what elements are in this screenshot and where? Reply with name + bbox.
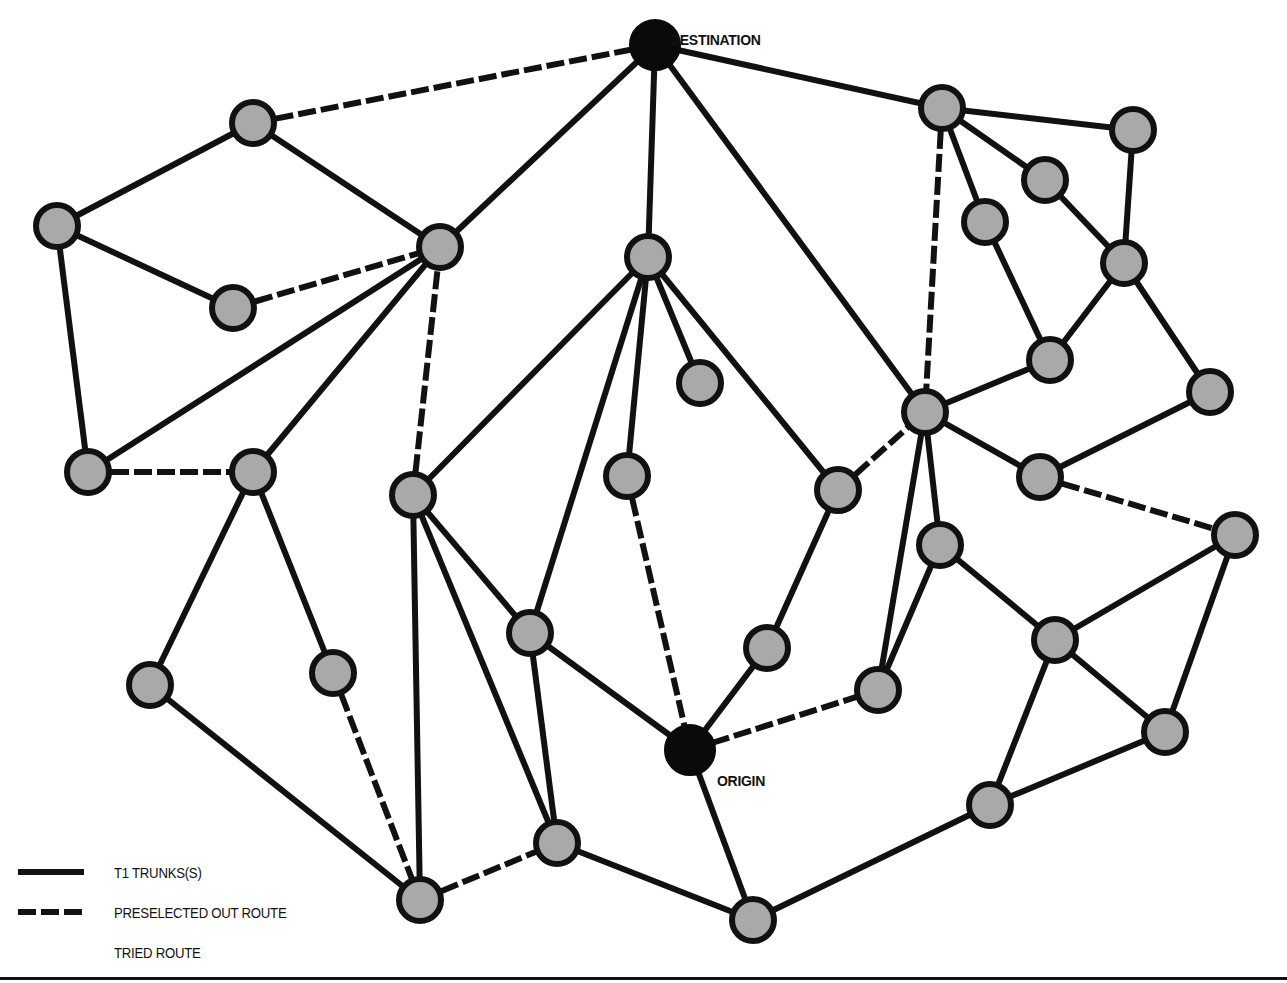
network-node xyxy=(399,879,441,921)
network-routing-diagram: DESTINATION ORIGIN xyxy=(0,0,1287,983)
t1-trunk-edge xyxy=(648,45,655,257)
destination-label: DESTINATION xyxy=(670,32,761,48)
preselected-route-edge xyxy=(253,45,655,123)
node-layer xyxy=(36,21,1256,941)
network-node xyxy=(1019,456,1061,498)
network-node xyxy=(129,664,171,706)
legend-item-t1-trunks: T1 TRUNKS(S) xyxy=(18,852,310,892)
origin-node xyxy=(666,726,714,774)
network-node xyxy=(857,669,899,711)
solid-line-icon xyxy=(18,862,84,882)
legend-label: TRIED ROUTE xyxy=(114,944,201,961)
tried-route-icon xyxy=(18,942,84,962)
network-node xyxy=(627,236,669,278)
preselected-route-edge xyxy=(925,108,942,412)
legend-item-tried-route: TRIED ROUTE xyxy=(18,932,310,972)
network-node xyxy=(36,205,78,247)
preselected-route-edge xyxy=(233,247,440,308)
t1-trunk-edge xyxy=(767,490,838,648)
preselected-route-edge xyxy=(413,247,440,495)
t1-trunk-edge xyxy=(1055,535,1235,640)
network-node xyxy=(904,391,946,433)
t1-trunk-edge xyxy=(88,247,440,472)
network-node xyxy=(536,822,578,864)
t1-trunk-edge xyxy=(753,805,990,920)
network-node xyxy=(969,784,1011,826)
t1-trunk-edge xyxy=(253,123,440,247)
t1-trunk-edge xyxy=(57,226,88,472)
t1-trunk-edge xyxy=(253,472,333,673)
network-node xyxy=(1214,514,1256,556)
network-node xyxy=(212,287,254,329)
legend-label: PRESELECTED OUT ROUTE xyxy=(114,904,286,921)
network-node xyxy=(606,455,648,497)
network-node xyxy=(392,474,434,516)
network-node xyxy=(419,226,461,268)
t1-trunk-edge xyxy=(253,247,440,472)
t1-trunk-edge xyxy=(1040,392,1210,477)
network-node xyxy=(312,652,354,694)
network-node xyxy=(509,612,551,654)
dashed-line-icon xyxy=(18,902,84,922)
t1-trunk-edge xyxy=(57,123,253,226)
network-node xyxy=(1029,339,1071,381)
t1-trunk-edge xyxy=(1165,535,1235,732)
network-node xyxy=(232,451,274,493)
t1-trunk-edge xyxy=(557,843,753,920)
network-node xyxy=(732,899,774,941)
network-node xyxy=(1034,619,1076,661)
origin-label: ORIGIN xyxy=(717,773,765,789)
preselected-route-edge xyxy=(1040,477,1235,535)
preselected-route-edge xyxy=(690,690,878,750)
network-node xyxy=(232,102,274,144)
network-node xyxy=(1189,371,1231,413)
t1-trunk-edge xyxy=(413,495,420,900)
network-node xyxy=(679,362,721,404)
t1-trunk-edge xyxy=(655,45,925,412)
network-node xyxy=(67,451,109,493)
network-node xyxy=(1024,159,1066,201)
t1-trunk-edge xyxy=(150,472,253,685)
network-node xyxy=(1112,109,1154,151)
legend-label: T1 TRUNKS(S) xyxy=(114,864,202,881)
network-node xyxy=(919,524,961,566)
network-node xyxy=(817,469,859,511)
t1-trunk-edge xyxy=(648,257,838,490)
bottom-divider xyxy=(0,977,1287,980)
network-node xyxy=(1144,711,1186,753)
network-node xyxy=(964,201,1006,243)
legend-item-preselected-out-route: PRESELECTED OUT ROUTE xyxy=(18,892,310,932)
t1-trunk-edge xyxy=(440,45,655,247)
network-node xyxy=(1103,242,1145,284)
network-node xyxy=(921,87,963,129)
network-node xyxy=(746,627,788,669)
legend: T1 TRUNKS(S) PRESELECTED OUT ROUTE TRIED… xyxy=(18,852,310,972)
t1-trunk-edge xyxy=(57,226,233,308)
t1-trunk-edge xyxy=(413,495,530,633)
